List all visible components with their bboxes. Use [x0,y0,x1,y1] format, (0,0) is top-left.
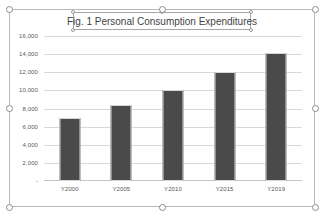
category-axis-tick-label: Y2019 [267,186,285,192]
bar-series[interactable] [44,36,302,181]
title-handle-top-left[interactable] [71,10,75,14]
bar[interactable] [111,105,132,181]
selection-handle-bottom-right[interactable] [312,204,319,211]
bar-slot [250,36,302,181]
value-axis-tick-label: 12,000 [19,69,38,75]
value-axis-tick-label: 14,000 [19,51,38,57]
title-handle-top-right[interactable] [249,10,253,14]
category-axis-tick-label: Y2015 [216,186,234,192]
selection-handle-bottom-left[interactable] [6,204,13,211]
category-axis-labels[interactable]: Y2000Y2005Y2010Y2015Y2019 [44,186,302,200]
bar[interactable] [162,90,183,181]
selection-handle-top-left[interactable] [6,6,13,13]
selection-handle-top-center[interactable] [159,6,166,13]
bar-slot [199,36,251,181]
bar-slot [147,36,199,181]
value-axis-tick-label: 16,000 [19,33,38,39]
value-axis-tick-label: 8,000 [22,106,38,112]
value-axis-tick-label: 2,000 [22,160,38,166]
value-axis-tick-label: 6,000 [22,124,38,130]
selection-handle-middle-right[interactable] [312,105,319,112]
chart-object[interactable]: -2,0004,0006,0008,00010,00012,00014,0001… [0,0,324,216]
bar[interactable] [214,72,235,181]
selection-handle-bottom-center[interactable] [159,204,166,211]
value-axis-tick-label: - [36,178,38,184]
bar[interactable] [266,53,287,181]
title-handle-bottom-right[interactable] [249,28,253,32]
title-handle-bottom-left[interactable] [71,28,75,32]
category-axis-tick-label: Y2000 [61,186,79,192]
value-axis-tick-label: 10,000 [19,87,38,93]
bar[interactable] [59,118,80,181]
selection-handle-middle-left[interactable] [6,105,13,112]
chart-title-textbox[interactable]: Fig. 1 Personal Consumption Expenditures [73,12,251,30]
category-axis-tick-label: Y2010 [164,186,182,192]
bar-slot [96,36,148,181]
value-axis-tick-label: 4,000 [22,142,38,148]
bar-slot [44,36,96,181]
category-axis-tick-label: Y2005 [112,186,130,192]
chart-title-text: Fig. 1 Personal Consumption Expenditures [74,13,250,29]
selection-handle-top-right[interactable] [312,6,319,13]
